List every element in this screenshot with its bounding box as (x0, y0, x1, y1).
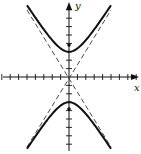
y-axis-arrow-icon (66, 2, 72, 10)
focus-upper-point (67, 43, 71, 47)
focus-lower-point (67, 107, 71, 111)
y-axis-label: y (75, 1, 81, 11)
x-axis-arrow-icon (131, 74, 139, 80)
hyperbola-graph (0, 0, 141, 154)
x-axis-label: x (134, 83, 140, 93)
